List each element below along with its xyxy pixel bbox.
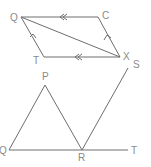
label-p: P: [42, 71, 49, 82]
label-s: S: [133, 59, 140, 70]
segment-qp: [9, 85, 45, 150]
label-t-top: T: [33, 55, 39, 66]
segment-pr: [45, 85, 82, 150]
label-c: C: [102, 10, 109, 21]
label-t-bottom: T: [131, 145, 137, 156]
label-q-top: Q: [10, 12, 18, 23]
parallelogram-figure: Q C T X S: [10, 10, 140, 70]
label-x: X: [123, 51, 130, 62]
segment-tq: [21, 17, 44, 57]
label-r: R: [78, 152, 85, 163]
segment-rs: [82, 68, 128, 150]
triangle-figure: P Q R T: [0, 68, 137, 163]
label-q-bottom: Q: [0, 145, 7, 156]
geometry-diagram: Q C T X S P Q R T: [0, 0, 151, 167]
